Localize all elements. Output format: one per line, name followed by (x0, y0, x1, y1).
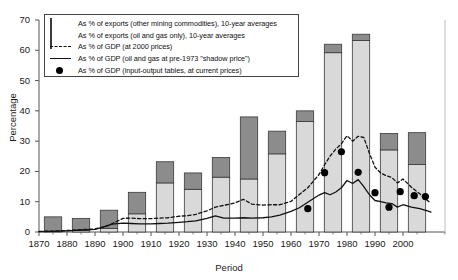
scatter-dot-gdp-input-output (321, 169, 328, 176)
x-tick-label: 1970 (304, 238, 334, 249)
y-tick-label: 50 (4, 75, 30, 86)
legend-item-oil-and-gas: As % of exports (oil and gas only), 10-y… (50, 30, 294, 42)
bar-segment-other-mining (184, 173, 201, 189)
bar-segment-oil-and-gas (296, 121, 313, 232)
legend-solid-line-icon (50, 54, 72, 63)
bar-segment-other-mining (352, 34, 369, 40)
y-tick-label: 20 (4, 165, 30, 176)
scatter-dot-gdp-input-output (338, 148, 345, 155)
x-tick-label: 1990 (360, 238, 390, 249)
line-gdp-2000-prices (39, 136, 431, 232)
x-tick-label: 1930 (192, 238, 222, 249)
bar-group (128, 192, 145, 232)
bar-segment-other-mining (380, 134, 397, 150)
bar-group (380, 134, 397, 232)
x-tick-label: 1980 (332, 238, 362, 249)
x-tick-label: 1900 (108, 238, 138, 249)
x-tick-label: 2000 (388, 238, 418, 249)
legend-label-other-mining: As % of exports (other mining commoditie… (78, 19, 277, 28)
y-tick-label: 60 (4, 44, 30, 55)
y-tick-label: 30 (4, 135, 30, 146)
bar-segment-oil-and-gas (268, 154, 285, 232)
scatter-dot-gdp-input-output (422, 193, 429, 200)
bar-segment-oil-and-gas (184, 189, 201, 232)
legend-swatch-other-mining-icon (50, 19, 72, 28)
scatter-dot-gdp-input-output (385, 204, 392, 211)
bar-segment-other-mining (296, 111, 313, 122)
y-tick-label: 10 (4, 196, 30, 207)
bar-segment-other-mining (268, 131, 285, 154)
y-tick-label: 40 (4, 105, 30, 116)
x-tick-label: 1870 (24, 238, 54, 249)
legend-label-gdp-shadow-price: As % of GDP (oil and gas at pre-1973 "sh… (78, 54, 250, 63)
x-axis-label: Period (0, 262, 458, 273)
bar-segment-other-mining (408, 133, 425, 165)
legend-swatch-oil-and-gas-icon (50, 31, 72, 40)
bar-group (408, 133, 425, 232)
legend-item-gdp-2000-prices: As % of GDP (at 2000 prices) (50, 41, 294, 53)
bar-segment-other-mining (240, 117, 257, 179)
bar-segment-other-mining (156, 162, 173, 183)
bar-segment-oil-and-gas (240, 179, 257, 232)
bar-segment-other-mining (128, 192, 145, 214)
x-tick-label: 1940 (220, 238, 250, 249)
scatter-dot-gdp-input-output (371, 189, 378, 196)
scatter-dot-gdp-input-output (397, 188, 404, 195)
bar-segment-other-mining (324, 44, 341, 52)
x-tick-label: 1950 (248, 238, 278, 249)
legend-item-gdp-shadow-price: As % of GDP (oil and gas at pre-1973 "sh… (50, 53, 294, 65)
bar-segment-oil-and-gas (100, 228, 117, 232)
bar-segment-other-mining (72, 218, 89, 230)
x-tick-label: 1920 (164, 238, 194, 249)
line-gdp-shadow-price (39, 180, 431, 232)
y-tick-label: 70 (4, 14, 30, 25)
bar-segment-other-mining (44, 217, 61, 232)
bar-segment-oil-and-gas (156, 183, 173, 232)
bar-segment-oil-and-gas (380, 150, 397, 232)
bar-group (184, 173, 201, 232)
scatter-dot-gdp-input-output (304, 205, 311, 212)
bar-segment-oil-and-gas (324, 53, 341, 232)
bar-group (156, 162, 173, 232)
legend-label-gdp-2000-prices: As % of GDP (at 2000 prices) (78, 42, 172, 51)
legend-dashed-line-icon (50, 42, 72, 51)
legend-item-other-mining: As % of exports (other mining commoditie… (50, 18, 294, 30)
bar-group (352, 34, 369, 232)
legend-item-gdp-input-output: As % of GDP (input-output tables, at cur… (50, 64, 294, 76)
x-tick-label: 1910 (136, 238, 166, 249)
bar-group (100, 210, 117, 232)
bar-segment-other-mining (212, 157, 229, 177)
bar-group (296, 111, 313, 232)
scatter-dot-gdp-input-output (355, 169, 362, 176)
legend-label-gdp-input-output: As % of GDP (input-output tables, at cur… (78, 66, 242, 75)
bar-group (324, 44, 341, 232)
chart-figure: Percentage Period As % of exports (other… (0, 0, 458, 280)
scatter-dot-gdp-input-output (411, 192, 418, 199)
bar-group (240, 117, 257, 232)
legend-label-oil-and-gas: As % of exports (oil and gas only), 10-y… (78, 31, 245, 40)
chart-legend: As % of exports (other mining commoditie… (44, 14, 299, 77)
x-tick-label: 1960 (276, 238, 306, 249)
legend-dot-marker-icon (50, 66, 72, 75)
y-tick-label: 0 (4, 226, 30, 237)
x-tick-label: 1890 (80, 238, 110, 249)
x-tick-label: 1880 (52, 238, 82, 249)
bar-group (212, 157, 229, 232)
bar-group (44, 217, 61, 232)
